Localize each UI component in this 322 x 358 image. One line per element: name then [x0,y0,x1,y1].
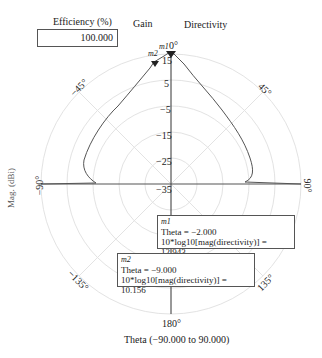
m2-theta: Theta = −9.000 [121,265,251,275]
radial-m15: −15 [156,130,172,141]
marker-m1-readout: m1 Theta = −2.000 10*log10[mag(directivi… [157,215,295,249]
marker-m2-readout: m2 Theta = −9.000 10*log10[mag(directivi… [117,253,255,287]
angle-180: 180° [162,318,181,329]
x-axis-label: Theta (−90.000 to 90.000) [124,334,229,345]
polar-chart [0,0,322,358]
m2-name: m2 [121,255,251,265]
m2-value: 10*log10[mag(directivity)] = 10.156 [121,275,251,295]
m1-theta: Theta = −2.000 [161,227,291,237]
y-axis-label: Mag. (dBi) [6,168,16,208]
angle-m90: −90° [34,176,45,196]
m1-label: m1 [159,42,169,51]
radial-15: 15 [162,55,172,66]
radial-m25: −25 [156,156,172,167]
angle-0: 0° [169,40,178,51]
radial-m35: −35 [156,184,172,195]
angle-90: 90° [302,179,313,193]
radial-5: 5 [164,78,169,89]
m2-label: m2 [148,49,158,58]
radial-m5: −5 [160,104,171,115]
m1-name: m1 [161,217,291,227]
